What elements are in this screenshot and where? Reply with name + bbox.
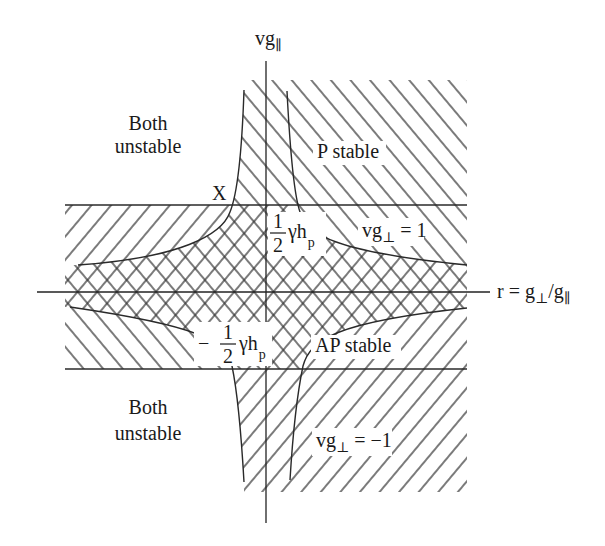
stability-diagram: vg∥ r = g⊥/g∥ Both unstable Both unstabl… — [0, 0, 605, 546]
crossing-point-label: X — [212, 182, 227, 204]
both-unstable-top-line2: unstable — [115, 135, 182, 157]
upper-gap-denominator: 2 — [273, 234, 283, 256]
vertical-axis-label: vg∥ — [255, 27, 281, 53]
horizontal-axis-label: r = g⊥/g∥ — [497, 280, 570, 306]
ap-stable-label: AP stable — [315, 334, 392, 356]
lower-gap-numerator: 1 — [223, 321, 233, 343]
lower-gap-denominator: 2 — [223, 345, 233, 367]
p-stable-label: P stable — [317, 140, 379, 162]
both-unstable-top-line1: Both — [129, 112, 168, 134]
lower-gap-sign: − — [198, 332, 209, 354]
both-unstable-bottom-line2: unstable — [115, 422, 182, 444]
upper-gap-numerator: 1 — [273, 210, 283, 232]
both-unstable-bottom-line1: Both — [129, 396, 168, 418]
